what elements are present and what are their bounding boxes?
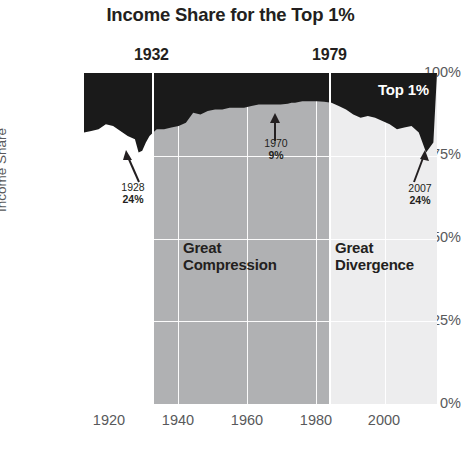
- chart-figure: Income Share for the Top 1% 100% 75% 50%…: [0, 0, 461, 457]
- divider-line-1979: [329, 73, 331, 404]
- annotation-2007: 2007 24%: [397, 183, 443, 206]
- x-tick-1980: 1980: [281, 412, 351, 428]
- divider-line-1932: [152, 73, 154, 404]
- x-tick-1920: 1920: [74, 412, 144, 428]
- era-label-line1: Great: [335, 239, 373, 256]
- annotation-year: 1970: [256, 138, 296, 150]
- annotation-arrow-1928: [122, 148, 144, 184]
- x-tick-1940: 1940: [143, 412, 213, 428]
- annotation-year: 2007: [397, 183, 443, 195]
- annotation-value: 24%: [397, 195, 443, 207]
- series-label-top-1-percent: Top 1%: [378, 81, 429, 98]
- era-label-line1: Great: [183, 239, 221, 256]
- era-label-great-divergence: Great Divergence: [335, 239, 414, 273]
- x-tick-1960: 1960: [212, 412, 282, 428]
- annotation-1970: 1970 9%: [256, 138, 296, 161]
- annotation-1928: 1928 24%: [110, 182, 156, 205]
- annotation-arrow-2007: [410, 148, 432, 184]
- era-label-great-compression: Great Compression: [183, 239, 277, 273]
- annotation-year: 1928: [110, 182, 156, 194]
- era-label-line2: Compression: [183, 256, 277, 273]
- era-marker-1979: 1979: [312, 46, 347, 64]
- y-axis-label: Income Share: [0, 128, 9, 212]
- annotation-value: 24%: [110, 194, 156, 206]
- x-tick-2000: 2000: [349, 412, 419, 428]
- plot-area: Top 1% Great Compression Great Divergenc…: [84, 73, 437, 404]
- era-marker-1932: 1932: [134, 46, 169, 64]
- annotation-value: 9%: [256, 150, 296, 162]
- era-label-line2: Divergence: [335, 256, 414, 273]
- page-title: Income Share for the Top 1%: [0, 4, 461, 26]
